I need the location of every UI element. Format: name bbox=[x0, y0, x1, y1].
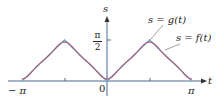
t-axis-arrow-icon bbox=[201, 79, 207, 84]
s-axis-label: s bbox=[103, 4, 108, 14]
s-axis-arrow-icon bbox=[105, 16, 110, 22]
pi-denominator: 2 bbox=[95, 42, 101, 52]
f-leader-line bbox=[165, 44, 180, 50]
t-axis-label: t bbox=[208, 76, 212, 86]
zero-label: 0 bbox=[99, 84, 105, 94]
pos-pi-label: π bbox=[188, 86, 195, 96]
f-annotation: s = f(t) bbox=[176, 33, 211, 43]
g-leader-line bbox=[150, 25, 163, 40]
g-annotation: s = g(t) bbox=[148, 15, 186, 25]
neg-pi-label: − π bbox=[8, 86, 26, 96]
pi-numerator: π bbox=[95, 30, 101, 40]
pi-over-2-label: π 2 bbox=[93, 31, 102, 52]
